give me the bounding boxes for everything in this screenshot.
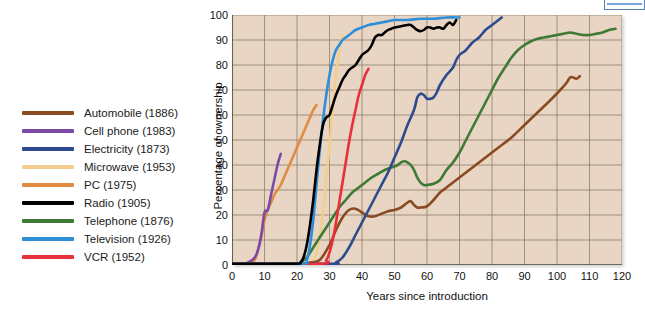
legend-item-label: Microwave (1953) — [84, 161, 175, 173]
data-series-line — [232, 18, 502, 264]
x-axis-tick-label: 110 — [573, 271, 607, 282]
legend-color-swatch — [22, 237, 74, 241]
y-axis-tick-label: 10 — [202, 235, 228, 246]
legend-item: Electricity (1873) — [22, 140, 207, 158]
x-axis-tick-label: 70 — [443, 271, 477, 282]
x-axis-tick-label: 30 — [313, 271, 347, 282]
data-series-line — [232, 154, 281, 264]
legend-color-swatch — [22, 201, 74, 205]
data-series-line — [232, 17, 460, 264]
legend-color-swatch — [22, 111, 74, 115]
legend-color-swatch — [22, 165, 74, 169]
legend-color-swatch — [22, 129, 74, 133]
legend-item: PC (1975) — [22, 176, 207, 194]
legend-item: VCR (1952) — [22, 248, 207, 266]
legend-item: Cell phone (1983) — [22, 122, 207, 140]
legend-item-label: Electricity (1873) — [84, 143, 170, 155]
legend-item-label: Cell phone (1983) — [84, 125, 175, 137]
x-axis-tick-label: 60 — [410, 271, 444, 282]
legend-item-label: Television (1926) — [84, 233, 171, 245]
legend-item: Automobile (1886) — [22, 104, 207, 122]
legend-item: Television (1926) — [22, 230, 207, 248]
x-axis-tick-label: 0 — [215, 271, 249, 282]
x-axis-tick-label: 10 — [248, 271, 282, 282]
legend-color-swatch — [22, 255, 74, 259]
legend-item-label: VCR (1952) — [84, 251, 145, 263]
data-series-line — [232, 29, 616, 264]
legend-item: Microwave (1953) — [22, 158, 207, 176]
x-axis-tick-label: 100 — [540, 271, 574, 282]
y-axis-title: Percentage of ownership — [212, 61, 224, 231]
y-axis-title-wrapper: Percentage of ownership — [190, 15, 204, 265]
legend-item-label: Automobile (1886) — [84, 107, 178, 119]
legend-item-label: PC (1975) — [84, 179, 136, 191]
plot-lines-svg — [232, 15, 622, 265]
legend-color-swatch — [22, 183, 74, 187]
corner-artifact-line — [607, 3, 642, 5]
y-axis-tick-label: 100 — [202, 10, 228, 21]
legend-color-swatch — [22, 147, 74, 151]
data-series-line — [232, 69, 369, 264]
x-axis-tick-label: 50 — [378, 271, 412, 282]
x-axis-tick-label: 20 — [280, 271, 314, 282]
x-axis-title: Years since introduction — [232, 290, 622, 302]
x-axis-tick-label: 120 — [605, 271, 639, 282]
page-corner-artifact — [604, 0, 645, 10]
legend-item: Telephone (1876) — [22, 212, 207, 230]
data-series-line — [232, 76, 580, 264]
x-axis-tick-label: 90 — [508, 271, 542, 282]
chart-plot-area — [232, 15, 622, 265]
y-axis-tick-label: 90 — [202, 35, 228, 46]
legend-item: Radio (1905) — [22, 194, 207, 212]
x-axis-tick-label: 80 — [475, 271, 509, 282]
x-axis-ticks: 0102030405060708090100110120 — [232, 271, 622, 285]
x-axis-tick-label: 40 — [345, 271, 379, 282]
legend-item-label: Telephone (1876) — [84, 215, 174, 227]
legend-item-label: Radio (1905) — [84, 197, 150, 209]
chart-legend: Automobile (1886)Cell phone (1983)Electr… — [22, 104, 207, 266]
y-axis-tick-label: 0 — [202, 260, 228, 271]
data-series-line — [232, 20, 456, 264]
legend-color-swatch — [22, 219, 74, 223]
